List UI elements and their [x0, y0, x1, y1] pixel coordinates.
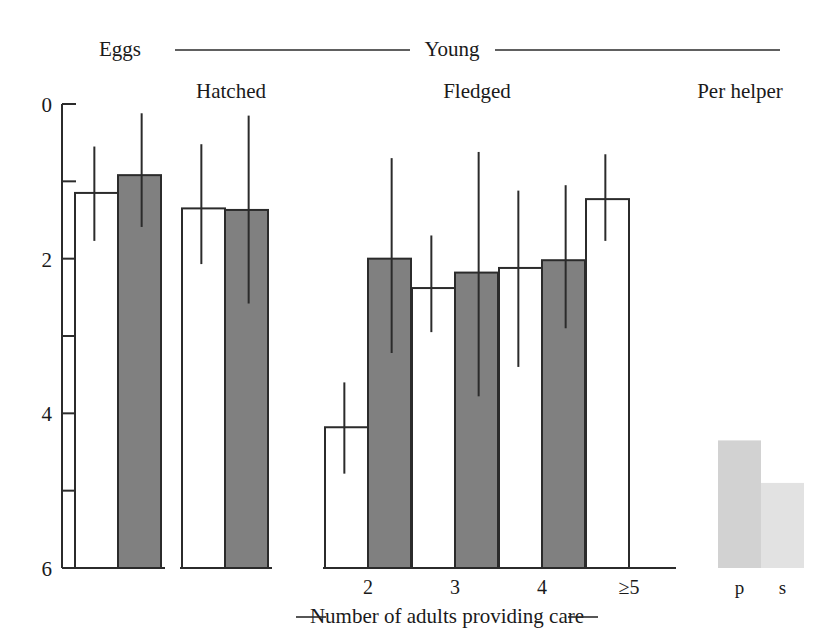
x-category-label-2: 2: [363, 576, 373, 598]
bar-filled-3: [455, 273, 498, 568]
group-header-young: Young: [424, 37, 480, 61]
bar-open-3: [412, 288, 455, 568]
bar-filled-0: [118, 175, 161, 568]
bar-filled-4: [542, 260, 585, 568]
per-helper-bar-p: [718, 440, 761, 568]
bar-open-4: [499, 268, 542, 568]
y-tick-label-6: 0: [42, 93, 53, 117]
per-helper-bar-s: [761, 483, 804, 568]
x-category-label-4: 4: [537, 576, 547, 598]
chart-canvas: 6420234≥5psEggsYoungHatchedFledgedPer he…: [0, 0, 823, 644]
per-helper-label-s: s: [779, 577, 786, 598]
y-tick-label-0: 6: [42, 557, 53, 581]
y-tick-label-4: 2: [42, 248, 53, 272]
bar-open-1: [182, 208, 225, 568]
x-axis-title: Number of adults providing care: [310, 604, 584, 628]
subgroup-header-fledged: Fledged: [443, 79, 511, 103]
x-category-label-5plus: ≥5: [619, 576, 640, 598]
bar-open-0: [75, 193, 118, 568]
group-header-eggs: Eggs: [99, 37, 141, 61]
bar-open-2: [325, 427, 368, 568]
per-helper-label-p: p: [735, 577, 745, 598]
bar-filled-1: [225, 210, 268, 568]
subgroup-header-hatched: Hatched: [196, 79, 266, 103]
bar-open-5: [586, 199, 629, 568]
y-tick-label-2: 4: [42, 402, 53, 426]
bar-chart-figure: 6420234≥5psEggsYoungHatchedFledgedPer he…: [0, 0, 823, 644]
x-category-label-3: 3: [450, 576, 460, 598]
subgroup-header-per-helper: Per helper: [697, 79, 783, 103]
bar-filled-2: [368, 259, 411, 568]
